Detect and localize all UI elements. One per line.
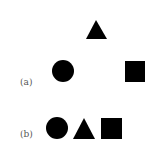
circle-shape [52, 60, 74, 82]
square-shape [125, 61, 145, 82]
panel-a [52, 20, 145, 82]
circle-shape [46, 117, 68, 139]
panel-b-label: (b) [20, 130, 33, 139]
square-shape [101, 118, 122, 139]
panel-b [46, 117, 122, 139]
triangle-shape [86, 20, 107, 39]
triangle-shape [73, 118, 95, 139]
panel-a-label: (a) [20, 78, 32, 87]
